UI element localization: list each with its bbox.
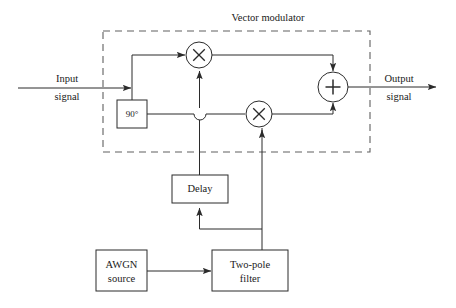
two-pole-filter-label-line1: Two-pole <box>230 259 270 271</box>
two-pole-filter-label-line2: filter <box>240 273 260 285</box>
wire-hop-arc <box>194 114 206 120</box>
diagram-title: Vector modulator <box>231 12 304 24</box>
awgn-source-label-line1: AWGN <box>106 259 138 271</box>
diagram-canvas: Vector modulator Input signal Output sig… <box>0 0 456 308</box>
output-signal-label-line1: Output <box>384 73 413 85</box>
input-signal-label-line1: Input <box>56 73 78 85</box>
output-signal-label-line2: signal <box>386 91 411 103</box>
delay-block-label: Delay <box>187 183 212 195</box>
block-diagram-svg <box>0 0 456 308</box>
awgn-source-label-line2: source <box>108 273 135 285</box>
phase-shifter-label: 90° <box>126 109 139 119</box>
input-signal-label-line2: signal <box>54 91 79 103</box>
